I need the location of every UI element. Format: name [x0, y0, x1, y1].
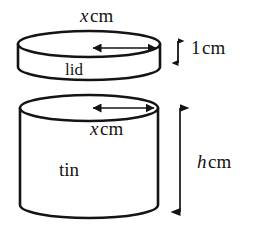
tin-shape [20, 95, 158, 218]
cylinder-diagram: x cm 1 cm lid x cm tin h cm [0, 0, 255, 246]
lid-diameter-label: x cm [80, 6, 113, 25]
tin-height-variable: h [197, 151, 207, 172]
lid-top-ellipse [18, 31, 160, 57]
tin-body [20, 108, 158, 218]
lid-diameter-unit: cm [90, 5, 113, 26]
lid-name-label: lid [65, 61, 83, 78]
tin-name-label: tin [59, 160, 79, 179]
tin-height-label: h cm [197, 152, 231, 171]
lid-height-unit: cm [202, 37, 225, 58]
tin-diameter-unit: cm [100, 118, 123, 139]
lid-height-value: 1 [191, 37, 201, 58]
tin-diameter-label: x cm [90, 119, 123, 138]
tin-height-unit: cm [208, 151, 231, 172]
lid-shape [18, 31, 160, 80]
lid-height-label: 1 cm [191, 38, 225, 57]
